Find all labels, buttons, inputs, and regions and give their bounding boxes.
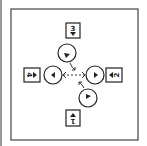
pass-connector (63, 72, 85, 78)
left-player-box: 4 (24, 68, 40, 82)
right-player-box: 2 (106, 68, 122, 82)
right-circle (86, 66, 104, 84)
top-movement-arrow (70, 63, 75, 70)
top-circle (58, 44, 76, 62)
movement-diagram: 3 4 2 1 (0, 0, 147, 146)
bottom-movement-arrow (79, 82, 84, 88)
bottom-circle (79, 89, 97, 107)
bottom-player-box: 1 (66, 110, 80, 126)
right-box-number: 2 (113, 72, 121, 77)
top-player-box: 3 (66, 23, 80, 38)
left-box-number: 4 (25, 73, 33, 78)
bottom-box-number: 1 (70, 117, 75, 125)
left-circle (44, 66, 62, 84)
top-box-number: 3 (71, 25, 76, 33)
